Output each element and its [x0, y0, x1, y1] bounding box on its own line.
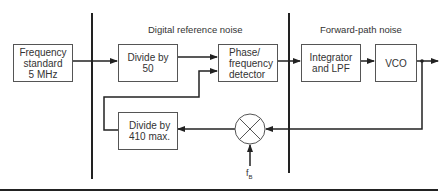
block-label: Frequency standard 5 MHz	[19, 47, 66, 80]
block-integrator-lpf: Integrator and LPF	[301, 44, 361, 82]
block-phase-frequency-detector: Phase/ frequency detector	[218, 44, 278, 82]
block-label: Phase/ frequency detector	[229, 47, 273, 80]
mixer-icon	[235, 114, 265, 144]
section-label-digital-reference-noise: Digital reference noise	[148, 24, 243, 35]
block-label: Divide by 50	[127, 52, 168, 74]
block-label: Integrator and LPF	[310, 52, 353, 74]
block-frequency-standard: Frequency standard 5 MHz	[13, 44, 73, 82]
block-label: Divide by 410 max.	[129, 120, 170, 142]
block-divide-by-50: Divide by 50	[118, 44, 178, 82]
fb-input-label: fB	[246, 168, 253, 180]
block-divide-by-410: Divide by 410 max.	[118, 112, 178, 150]
section-label-forward-path-noise: Forward-path noise	[320, 24, 402, 35]
block-vco: VCO	[375, 44, 417, 82]
block-label: VCO	[385, 58, 407, 69]
fb-label-sub: B	[249, 174, 253, 180]
